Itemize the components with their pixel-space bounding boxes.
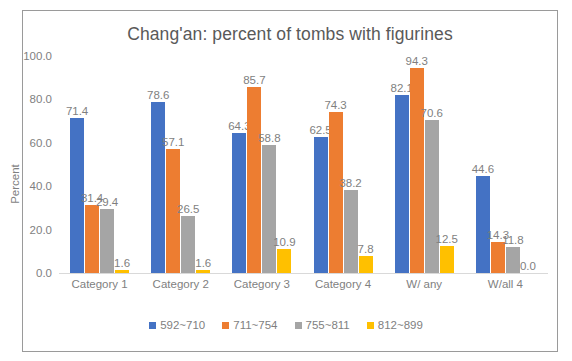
bar-value-label: 29.4: [96, 196, 118, 208]
y-tick-label: 80.0: [6, 93, 52, 105]
bar-value-label: 70.6: [421, 107, 443, 119]
chart-title: Chang'an: percent of tombs with figurine…: [23, 24, 557, 45]
bar-value-label: 26.5: [177, 203, 199, 215]
bar-group: 64.385.758.810.9: [221, 56, 302, 273]
y-tick-label: 40.0: [6, 180, 52, 192]
bar-group: 44.614.311.80.0: [465, 56, 546, 273]
legend-label: 755~811: [306, 319, 350, 331]
bar-value-label: 1.6: [114, 257, 130, 269]
bar[interactable]: 10.9: [277, 249, 291, 273]
legend-swatch-icon: [222, 322, 229, 329]
bar[interactable]: 58.8: [262, 145, 276, 273]
x-axis-category-label: W/ any: [384, 278, 465, 290]
bar-value-label: 74.3: [324, 99, 346, 111]
legend-label: 812~899: [378, 319, 423, 331]
bar[interactable]: 44.6: [476, 176, 490, 273]
legend-item[interactable]: 711~754: [222, 319, 277, 331]
bar-value-label: 12.5: [436, 233, 458, 245]
bar[interactable]: 11.8: [506, 247, 520, 273]
bar-group: 71.431.429.41.6: [59, 56, 140, 273]
bar[interactable]: 78.6: [151, 102, 165, 273]
bar-value-label: 78.6: [147, 89, 169, 101]
bar[interactable]: 82.1: [395, 95, 409, 273]
bar-group-bars: 71.431.429.41.6: [59, 56, 140, 273]
bar[interactable]: 14.3: [491, 242, 505, 273]
bar-value-label: 1.6: [195, 257, 211, 269]
bar-group: 82.194.370.612.5: [384, 56, 465, 273]
legend-label: 592~710: [160, 319, 205, 331]
bar-value-label: 71.4: [66, 105, 88, 117]
chart-legend: 592~710711~754755~811812~899: [0, 319, 572, 331]
legend-swatch-icon: [367, 322, 374, 329]
legend-swatch-icon: [295, 322, 302, 329]
legend-item[interactable]: 812~899: [367, 319, 423, 331]
y-tick-label: 0.0: [6, 267, 52, 279]
bar-group-bars: 62.574.338.27.8: [303, 56, 384, 273]
bar-value-label: 38.2: [339, 177, 361, 189]
bar[interactable]: 85.7: [247, 87, 261, 273]
legend-label: 711~754: [233, 319, 277, 331]
x-axis-category-label: W/all 4: [465, 278, 546, 290]
legend-item[interactable]: 755~811: [295, 319, 350, 331]
bar-value-label: 0.0: [520, 260, 536, 272]
bar[interactable]: 12.5: [440, 246, 454, 273]
x-axis-category-label: Category 1: [59, 278, 140, 290]
bar-group: 62.574.338.27.8: [303, 56, 384, 273]
bar-value-label: 94.3: [406, 55, 428, 67]
y-tick-label: 60.0: [6, 137, 52, 149]
bar-group-bars: 64.385.758.810.9: [221, 56, 302, 273]
bar-value-label: 44.6: [472, 163, 494, 175]
bar[interactable]: 64.3: [232, 133, 246, 273]
bar-group-bars: 82.194.370.612.5: [384, 56, 465, 273]
bar[interactable]: 74.3: [329, 112, 343, 273]
plot-area: 71.431.429.41.678.657.126.51.664.385.758…: [59, 56, 546, 273]
bar-value-label: 58.8: [258, 132, 280, 144]
y-axis-ticks: 100.080.060.040.020.00.0: [0, 56, 52, 273]
bar[interactable]: 31.4: [85, 205, 99, 273]
bar[interactable]: 38.2: [344, 190, 358, 273]
bar-value-label: 11.8: [502, 234, 524, 246]
x-axis-category-label: Category 2: [140, 278, 221, 290]
bar[interactable]: 94.3: [410, 68, 424, 273]
bar[interactable]: 1.6: [115, 270, 129, 273]
bar-value-label: 57.1: [162, 136, 184, 148]
bar[interactable]: 70.6: [425, 120, 439, 273]
x-axis-line: [59, 273, 548, 274]
bar-value-label: 10.9: [273, 236, 295, 248]
x-axis-category-label: Category 3: [221, 278, 302, 290]
legend-item[interactable]: 592~710: [149, 319, 205, 331]
x-axis-category-label: Category 4: [303, 278, 384, 290]
y-tick-label: 20.0: [6, 224, 52, 236]
bar-group: 78.657.126.51.6: [140, 56, 221, 273]
bar-group-bars: 78.657.126.51.6: [140, 56, 221, 273]
bar[interactable]: 62.5: [314, 137, 328, 273]
bar-value-label: 85.7: [243, 74, 265, 86]
bar[interactable]: 7.8: [359, 256, 373, 273]
legend-swatch-icon: [149, 322, 156, 329]
bar[interactable]: 26.5: [181, 216, 195, 274]
bar[interactable]: 29.4: [100, 209, 114, 273]
bar-group-bars: 44.614.311.80.0: [465, 56, 546, 273]
bar[interactable]: 1.6: [196, 270, 210, 273]
y-tick-label: 100.0: [6, 50, 52, 62]
bar-value-label: 7.8: [358, 243, 374, 255]
